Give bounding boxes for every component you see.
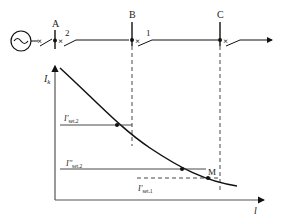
i-set2-prime-label: I'set.2 xyxy=(63,114,79,124)
bus-c-label: C xyxy=(217,9,224,20)
svg-text:×: × xyxy=(37,36,42,46)
bus-b-label: B xyxy=(129,9,136,20)
svg-text:×: × xyxy=(135,36,140,46)
bus-a-label: A xyxy=(52,18,60,29)
protection-1-label: 1 xyxy=(146,28,151,38)
protection-diagram: × A × 2 B × 1 C × Ik l I'set.2 I''set.2 xyxy=(0,0,282,218)
generator-icon xyxy=(11,31,31,51)
point-m-label: M xyxy=(208,167,216,177)
diagram-svg: × A × 2 B × 1 C × Ik l I'set.2 I''set.2 xyxy=(0,0,282,218)
y-axis-label: Ik xyxy=(43,73,51,86)
x-axis-label: l xyxy=(254,205,257,216)
i-set1-prime-label: I'set.1 xyxy=(137,184,153,194)
svg-text:×: × xyxy=(58,36,63,46)
i-set2-double-prime-label: I''set.2 xyxy=(65,159,83,169)
protection-2-label: 2 xyxy=(65,28,70,38)
svg-text:×: × xyxy=(223,36,228,46)
